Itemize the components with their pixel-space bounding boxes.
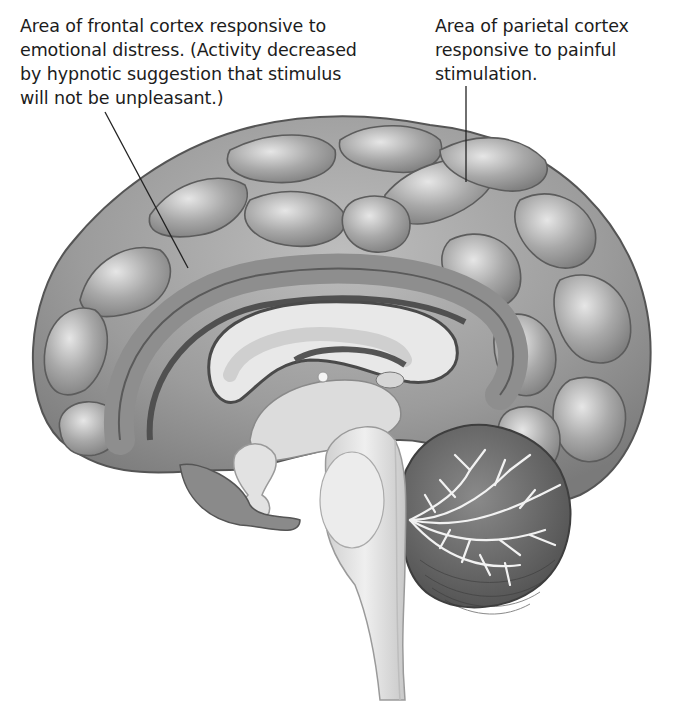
cerebellum xyxy=(399,425,570,614)
brainstem xyxy=(320,427,406,700)
brain-sagittal-illustration xyxy=(0,0,679,725)
